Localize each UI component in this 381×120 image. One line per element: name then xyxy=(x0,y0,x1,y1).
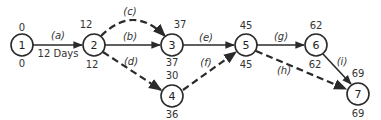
node-7-late: 69 xyxy=(352,108,365,119)
node-2-label: 2 xyxy=(91,39,98,52)
node-7-early: 69 xyxy=(352,68,365,79)
edge-label-a: (a) xyxy=(51,30,65,41)
node-3-early: 37 xyxy=(174,19,187,30)
edge-label-c: (c) xyxy=(123,6,136,17)
node-2-early: 12 xyxy=(80,19,93,30)
node-5-label: 5 xyxy=(243,39,250,52)
edge-label-i: (i) xyxy=(337,56,348,67)
edge-h xyxy=(256,51,346,89)
node-1-late: 0 xyxy=(19,58,25,69)
edge-duration-a: 12 Days xyxy=(38,48,79,59)
node-6-early: 62 xyxy=(310,20,323,31)
node-6-late: 62 xyxy=(309,59,322,70)
edge-label-e: (e) xyxy=(199,32,213,43)
edge-label-f: (f) xyxy=(200,57,211,68)
edge-label-h: (h) xyxy=(277,65,291,76)
node-7: 7 69 69 xyxy=(347,68,369,119)
node-4-late: 36 xyxy=(166,109,179,120)
node-4-early: 30 xyxy=(166,70,179,81)
node-3-late: 37 xyxy=(166,57,179,68)
edges xyxy=(33,20,351,90)
node-1: 1 0 0 xyxy=(11,22,33,69)
node-6-label: 6 xyxy=(313,39,320,52)
network-diagram: (a) 12 Days (b) (c) (d) (e) (f) (g) (h) … xyxy=(0,0,381,120)
node-2: 2 12 12 xyxy=(80,19,105,70)
node-5: 5 45 45 xyxy=(235,20,257,70)
edge-label-b: (b) xyxy=(123,31,137,42)
node-5-early: 45 xyxy=(240,20,253,31)
node-1-early: 0 xyxy=(19,22,25,33)
node-3-label: 3 xyxy=(169,39,176,52)
node-2-late: 12 xyxy=(86,59,99,70)
edge-label-d: (d) xyxy=(124,56,138,67)
node-1-label: 1 xyxy=(19,39,26,52)
node-5-late: 45 xyxy=(240,59,253,70)
node-4-label: 4 xyxy=(169,90,176,103)
node-3: 3 37 37 xyxy=(161,19,186,68)
edge-label-g: (g) xyxy=(274,31,288,42)
node-6: 6 62 62 xyxy=(305,20,327,70)
node-7-label: 7 xyxy=(355,88,362,101)
node-4: 4 30 36 xyxy=(161,70,183,120)
